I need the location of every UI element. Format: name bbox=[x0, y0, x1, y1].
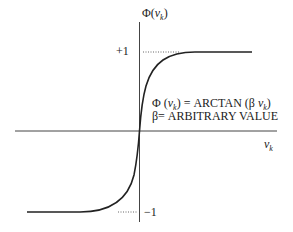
equation-line-2: β= ARBITRARY VALUE bbox=[152, 110, 278, 123]
x-axis-label: vk bbox=[264, 138, 273, 155]
tick-minus-one: −1 bbox=[144, 206, 157, 219]
tick-plus-one: +1 bbox=[116, 45, 129, 58]
y-axis-label: Φ(vk) bbox=[142, 7, 168, 24]
